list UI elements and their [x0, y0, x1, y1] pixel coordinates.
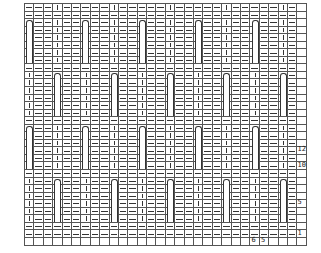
purl-cell — [62, 162, 71, 170]
purl-cell — [175, 56, 184, 64]
chart-row — [25, 49, 307, 57]
purl-cell — [137, 222, 146, 230]
purl-cell — [175, 185, 184, 193]
purl-cell — [128, 230, 137, 238]
knit-cell — [81, 109, 90, 117]
purl-cell — [25, 117, 34, 125]
cable-loop-icon — [82, 20, 89, 63]
purl-cell — [128, 4, 137, 12]
purl-cell — [240, 147, 249, 155]
purl-cell — [118, 11, 127, 19]
purl-cell — [128, 49, 137, 57]
purl-cell — [100, 19, 109, 27]
purl-cell — [212, 207, 221, 215]
cable-loop-icon — [111, 179, 118, 222]
empty-cell — [165, 237, 174, 245]
purl-cell — [194, 117, 203, 125]
purl-cell — [184, 41, 193, 49]
knit-cell — [81, 200, 90, 208]
purl-cell — [165, 170, 174, 178]
chart-row — [25, 4, 307, 12]
purl-cell — [175, 41, 184, 49]
empty-cell — [62, 237, 71, 245]
purl-cell — [184, 147, 193, 155]
purl-cell — [184, 132, 193, 140]
purl-cell — [184, 170, 193, 178]
purl-cell — [147, 19, 156, 27]
empty-cell — [297, 117, 306, 125]
purl-cell — [147, 41, 156, 49]
knit-cell — [194, 215, 203, 223]
knit-cell — [165, 26, 174, 34]
purl-cell — [90, 34, 99, 42]
purl-cell — [269, 109, 278, 117]
purl-cell — [278, 230, 287, 238]
purl-cell — [118, 41, 127, 49]
knit-cell — [250, 109, 259, 117]
purl-cell — [118, 71, 127, 79]
purl-cell — [175, 230, 184, 238]
purl-cell — [156, 94, 165, 102]
purl-cell — [184, 230, 193, 238]
knit-cell — [250, 192, 259, 200]
purl-cell — [259, 222, 268, 230]
cable-loop-icon — [280, 73, 287, 116]
purl-cell — [175, 170, 184, 178]
purl-cell — [137, 117, 146, 125]
purl-cell — [118, 102, 127, 110]
purl-cell — [269, 192, 278, 200]
purl-cell — [203, 49, 212, 57]
knit-cell — [194, 177, 203, 185]
chart-row — [25, 185, 307, 193]
purl-cell — [156, 41, 165, 49]
purl-cell — [203, 222, 212, 230]
purl-cell — [118, 162, 127, 170]
empty-cell — [297, 19, 306, 27]
knit-cell — [165, 49, 174, 57]
purl-cell — [43, 87, 52, 95]
purl-cell — [71, 49, 80, 57]
chart-row — [25, 94, 307, 102]
purl-cell — [147, 124, 156, 132]
chart-row — [25, 19, 307, 27]
purl-cell — [128, 139, 137, 147]
purl-cell — [43, 26, 52, 34]
purl-cell — [90, 139, 99, 147]
purl-cell — [118, 154, 127, 162]
knit-cell — [137, 177, 146, 185]
purl-cell — [34, 4, 43, 12]
purl-cell — [287, 19, 296, 27]
purl-cell — [231, 139, 240, 147]
purl-cell — [184, 177, 193, 185]
purl-cell — [222, 64, 231, 72]
chart-row — [25, 102, 307, 110]
purl-cell — [259, 139, 268, 147]
purl-cell — [231, 87, 240, 95]
purl-cell — [128, 185, 137, 193]
purl-cell — [118, 207, 127, 215]
purl-cell — [287, 87, 296, 95]
purl-cell — [222, 170, 231, 178]
purl-cell — [259, 26, 268, 34]
purl-cell — [62, 132, 71, 140]
purl-cell — [259, 154, 268, 162]
purl-cell — [156, 56, 165, 64]
purl-cell — [90, 132, 99, 140]
purl-cell — [175, 34, 184, 42]
row-number-label: 10 — [298, 161, 306, 169]
purl-cell — [212, 230, 221, 238]
purl-cell — [118, 56, 127, 64]
chart-grid — [24, 3, 307, 246]
purl-cell — [259, 132, 268, 140]
purl-cell — [62, 230, 71, 238]
empty-cell — [297, 132, 306, 140]
purl-cell — [71, 56, 80, 64]
purl-cell — [240, 56, 249, 64]
purl-cell — [231, 56, 240, 64]
purl-cell — [34, 170, 43, 178]
purl-cell — [71, 192, 80, 200]
purl-cell — [71, 71, 80, 79]
purl-cell — [90, 11, 99, 19]
chart-row — [25, 177, 307, 185]
knit-cell — [250, 94, 259, 102]
